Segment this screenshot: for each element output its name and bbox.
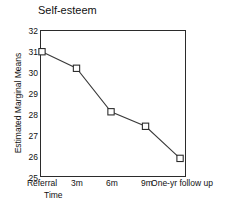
x-tick-label: 3m <box>71 178 83 188</box>
series-line <box>42 52 180 159</box>
x-axis-title: Time <box>44 190 63 200</box>
y-tick-label: 27 <box>29 132 38 141</box>
data-point-marker <box>177 155 183 161</box>
y-axis-title: Estimated Marginal Means <box>13 28 23 178</box>
chart-figure: Self-esteem Estimated Marginal Means 252… <box>0 0 246 207</box>
plot-area <box>41 31 185 176</box>
data-point-marker <box>73 65 79 71</box>
y-tick-label: 29 <box>29 90 38 99</box>
y-tick-label: 28 <box>29 111 38 120</box>
x-tick-label: One-yr follow up <box>151 178 213 188</box>
data-point-marker <box>142 123 148 129</box>
chart-title: Self-esteem <box>38 4 97 17</box>
data-point-marker <box>108 109 114 115</box>
series-self-esteem <box>41 31 185 176</box>
x-tick-label: 6m <box>106 178 118 188</box>
x-tick-label: Referral <box>27 178 57 188</box>
y-tick-label: 26 <box>29 153 38 162</box>
y-tick-label: 32 <box>29 27 38 36</box>
plot-frame: 2526272829303132Referral3m6m9mOne-yr fol… <box>40 30 186 177</box>
data-point-marker <box>39 49 45 55</box>
series-markers <box>39 49 183 162</box>
y-tick-label: 31 <box>29 48 38 57</box>
y-tick-label: 30 <box>29 69 38 78</box>
